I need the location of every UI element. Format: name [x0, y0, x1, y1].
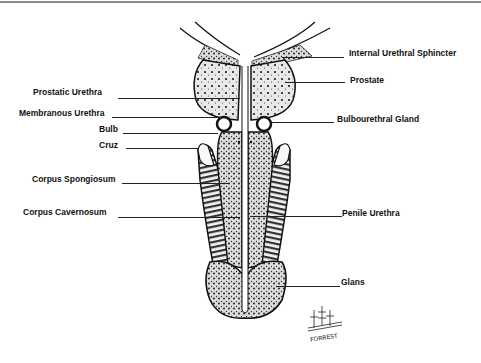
leader-prostatic-urethra	[118, 98, 240, 99]
leader-prostate	[285, 82, 345, 83]
leader-internal-urethral-sphincter	[282, 57, 344, 58]
label-cruz: Cruz	[99, 140, 118, 150]
signature-text: FORREST	[310, 332, 339, 343]
label-prostatic-urethra: Prostatic Urethra	[33, 87, 102, 97]
leader-bulbourethral-gland	[270, 122, 334, 123]
leader-glans	[276, 286, 340, 287]
label-corpus-cavernosum: Corpus Cavernosum	[23, 207, 107, 217]
leader-penile-urethra	[250, 216, 342, 217]
leader-membranous-urethra	[112, 117, 222, 118]
prostate-right	[251, 60, 295, 120]
label-glans: Glans	[341, 277, 365, 287]
label-corpus-spongiosum: Corpus Spongiosum	[32, 174, 116, 184]
leader-bulb	[123, 133, 218, 134]
prostate-left	[194, 60, 240, 120]
artist-signature	[308, 306, 342, 331]
label-membranous-urethra: Membranous Urethra	[19, 108, 105, 118]
urethra	[242, 66, 248, 313]
label-penile-urethra: Penile Urethra	[342, 208, 400, 218]
label-bulb: Bulb	[99, 124, 118, 134]
label-bulbourethral-gland: Bulbourethral Gland	[337, 114, 419, 124]
label-prostate: Prostate	[350, 75, 384, 85]
leader-corpus-cavernosum	[118, 217, 240, 218]
leader-cruz	[126, 148, 198, 149]
leader-corpus-spongiosum	[122, 183, 230, 184]
bulbourethral-gland-left	[217, 117, 231, 131]
bulbourethral-gland-right	[257, 117, 271, 131]
label-internal-urethral-sphincter: Internal Urethral Sphincter	[349, 48, 456, 58]
